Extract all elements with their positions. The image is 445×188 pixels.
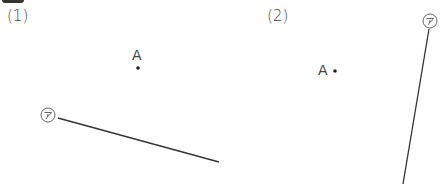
problem-2-point-a xyxy=(333,69,337,73)
problem-1-line-a xyxy=(58,118,219,162)
diagram-canvas xyxy=(0,0,445,188)
problem-2-line-label-circle xyxy=(423,14,437,28)
problem-1-point-a xyxy=(136,66,140,70)
problem-1-line-label-circle xyxy=(41,108,55,122)
problem-2-line-a xyxy=(403,29,429,184)
